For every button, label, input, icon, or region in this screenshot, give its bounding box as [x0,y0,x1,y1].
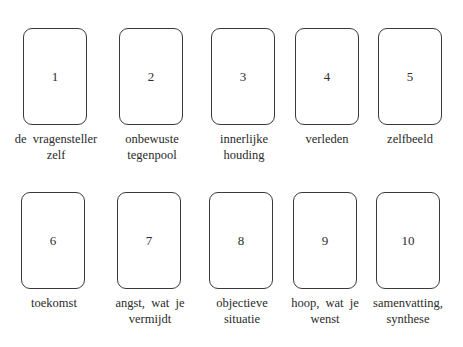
label-line: houding [189,147,299,163]
label-line: zelf [1,147,111,163]
card-label-5: zelfbeeld [355,131,463,147]
label-line: de vragensteller [1,131,111,147]
card-number: 5 [379,69,441,85]
card-number: 4 [296,69,358,85]
card-position-4: 4 [295,28,359,125]
label-line: toekomst [0,295,109,311]
card-position-1: 1 [23,28,87,125]
card-position-5: 5 [378,28,442,125]
card-position-8: 8 [209,192,273,289]
label-line: zelfbeeld [355,131,463,147]
card-position-2: 2 [119,28,183,125]
card-number: 8 [210,233,272,249]
card-number: 7 [118,233,180,249]
card-label-1: de vragensteller zelf [1,131,111,163]
card-position-9: 9 [293,192,357,289]
label-line: samenvatting, [353,295,463,311]
card-number: 2 [120,69,182,85]
card-number: 10 [377,233,439,249]
card-position-10: 10 [376,192,440,289]
label-line: synthese [353,311,463,327]
card-position-6: 6 [21,192,85,289]
card-number: 9 [294,233,356,249]
card-number: 1 [24,69,86,85]
card-label-6: toekomst [0,295,109,311]
card-position-3: 3 [211,28,275,125]
card-position-7: 7 [117,192,181,289]
card-number: 6 [22,233,84,249]
card-label-10: samenvatting, synthese [353,295,463,327]
card-number: 3 [212,69,274,85]
